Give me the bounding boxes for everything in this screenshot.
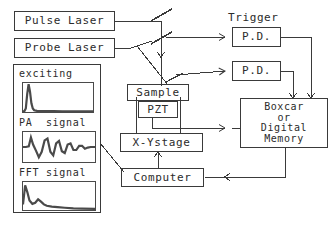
pzt-signal-line <box>152 117 225 128</box>
box-probe-laser[interactable]: Probe Laser <box>14 38 115 58</box>
boxcar-label-text: Boxcar or Digital Memory <box>261 102 307 144</box>
box-photodiode-trigger[interactable]: P.D. <box>232 27 281 47</box>
graph-exciting-trace <box>23 83 93 112</box>
graph-caption-exciting: exciting <box>19 68 73 79</box>
boxcar-to-computer <box>205 148 285 177</box>
graph-caption-fft-signal: FFT signal <box>19 167 86 178</box>
graph-pa-signal <box>22 131 96 163</box>
probe-beam-diagonal <box>137 46 168 85</box>
graph-caption-pa-signal: PA signal <box>19 117 86 128</box>
trigger-pd-to-boxcar <box>281 37 311 98</box>
label-trigger: Trigger <box>228 11 279 24</box>
box-sample[interactable]: Sample <box>127 84 189 101</box>
box-pzt[interactable]: PZT <box>138 101 178 118</box>
signal-pd-line <box>176 71 225 75</box>
graph-fft-signal-trace <box>23 182 95 210</box>
probe-mirror <box>131 41 152 48</box>
signal-pd-to-boxcar <box>281 71 293 98</box>
setup-diagram: Pulse Laser Probe Laser Trigger P.D. P.D… <box>0 0 331 225</box>
graph-exciting <box>22 82 94 113</box>
graph-pa-signal-trace <box>23 132 95 162</box>
graph-fft-signal <box>22 181 96 211</box>
box-boxcar-digital-memory[interactable]: Boxcar or Digital Memory <box>240 98 328 148</box>
box-xy-stage[interactable]: X-Ystage <box>120 133 203 152</box>
box-photodiode-signal[interactable]: P.D. <box>232 61 281 81</box>
box-pulse-laser[interactable]: Pulse Laser <box>14 11 115 31</box>
box-computer[interactable]: Computer <box>121 168 204 187</box>
beam-splitter-1 <box>151 9 172 21</box>
